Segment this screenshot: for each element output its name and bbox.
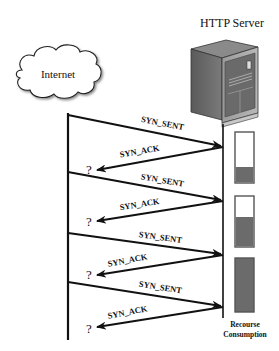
svg-text:SYN_ACK: SYN_ACK xyxy=(119,143,161,160)
message-syn-sent: SYN_SENT xyxy=(68,171,221,200)
svg-text:SYN_ACK: SYN_ACK xyxy=(119,196,161,212)
svg-text:SYN_SENT: SYN_SENT xyxy=(138,279,183,296)
message-syn-ack: SYN_ACK xyxy=(97,143,223,170)
resource-bar-1 xyxy=(235,132,254,183)
cloud-label: Internet xyxy=(41,68,75,80)
server-title: HTTP Server xyxy=(200,16,264,30)
message-syn-sent: SYN_SENT xyxy=(68,279,221,306)
message-syn-sent: SYN_SENT xyxy=(68,114,221,146)
resource-bar-3 xyxy=(235,258,254,312)
svg-text:SYN_ACK: SYN_ACK xyxy=(107,251,149,269)
resource-bar-2 xyxy=(235,196,254,247)
svg-text:SYN_SENT: SYN_SENT xyxy=(140,114,185,132)
message-syn-sent: SYN_SENT xyxy=(68,229,221,254)
server-tower-icon xyxy=(191,40,258,127)
message-syn-ack: SYN_ACK xyxy=(97,251,223,275)
resource-caption-line2: Consumption xyxy=(223,330,267,339)
unknown-mark: ? xyxy=(86,214,92,229)
resource-caption-line1: Recourse xyxy=(230,320,260,329)
message-syn-ack: SYN_ACK xyxy=(97,196,223,221)
unknown-mark: ? xyxy=(86,267,92,282)
syn-flood-diagram: HTTP Server Internet SYN_SENT SYN_ACK ? … xyxy=(0,0,279,351)
message-syn-ack: SYN_ACK xyxy=(97,303,223,327)
svg-text:SYN_ACK: SYN_ACK xyxy=(107,303,149,321)
unknown-mark: ? xyxy=(86,321,92,336)
